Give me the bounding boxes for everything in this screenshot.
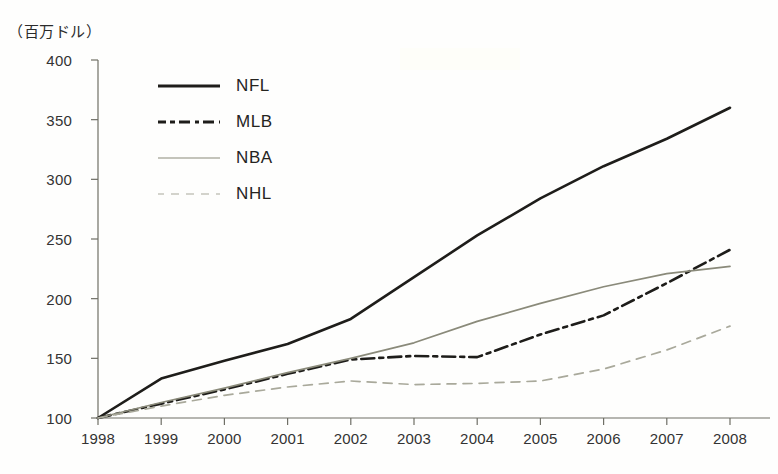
plot-area — [0, 0, 778, 474]
legend-swatch-mlb — [158, 115, 220, 129]
series-line-nba — [98, 266, 730, 418]
legend-label-nba: NBA — [236, 148, 273, 168]
legend-item-nhl: NHL — [158, 176, 273, 212]
line-chart: （百万ドル） 100150200250300350400 19981999200… — [0, 0, 778, 474]
legend-label-nhl: NHL — [236, 184, 272, 204]
series-line-mlb — [98, 250, 730, 418]
legend-label-nfl: NFL — [236, 76, 270, 96]
legend-swatch-nhl — [158, 187, 220, 201]
legend-item-mlb: MLB — [158, 104, 273, 140]
legend-label-mlb: MLB — [236, 112, 273, 132]
legend-item-nfl: NFL — [158, 68, 273, 104]
series-line-nhl — [98, 326, 730, 418]
legend-swatch-nfl — [158, 79, 220, 93]
legend-swatch-nba — [158, 151, 220, 165]
legend-item-nba: NBA — [158, 140, 273, 176]
chart-legend: NFL MLB NBA NHL — [158, 68, 273, 212]
